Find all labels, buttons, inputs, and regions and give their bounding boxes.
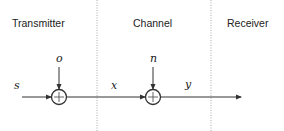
section-label-transmitter: Transmitter xyxy=(12,17,65,29)
block-diagram: Transmitter Channel Receiver s o x n y xyxy=(0,0,284,131)
signal-y-label: y xyxy=(184,78,192,91)
signal-x-label: x xyxy=(111,79,118,92)
diagram-canvas: Transmitter Channel Receiver s o x n y xyxy=(0,0,284,131)
noise-n-label: n xyxy=(150,52,157,65)
signal-s-label: s xyxy=(14,79,20,92)
offset-o-label: o xyxy=(56,52,63,65)
section-label-channel: Channel xyxy=(133,17,172,29)
summing-junction-1 xyxy=(52,90,67,105)
summing-junction-2 xyxy=(146,90,161,105)
section-label-receiver: Receiver xyxy=(227,17,269,29)
